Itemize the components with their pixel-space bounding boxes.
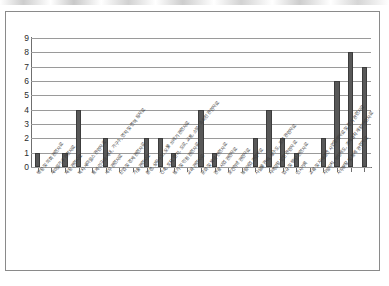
x-tick-mark: [51, 168, 52, 172]
y-tick-label-2: 2: [15, 134, 29, 143]
gridline-y-7: [31, 67, 371, 68]
x-tick-mark: [174, 168, 175, 172]
y-axis-tick-labels: 0123456789: [13, 0, 29, 286]
x-tick-mark: [147, 168, 148, 172]
x-tick-mark: [215, 168, 216, 172]
y-tick-label-4: 4: [15, 106, 29, 115]
gridline-y-9: [31, 38, 371, 39]
x-tick-mark: [187, 168, 188, 172]
y-tick-label-6: 6: [15, 77, 29, 86]
x-tick-mark: [228, 168, 229, 172]
x-tick-mark: [106, 168, 107, 172]
x-tick-mark: [119, 168, 120, 172]
x-tick-mark: [283, 168, 284, 172]
x-tick-mark: [65, 168, 66, 172]
x-tick-mark: [79, 168, 80, 172]
y-tick-label-5: 5: [15, 91, 29, 100]
y-tick-label-1: 1: [15, 149, 29, 158]
x-tick-mark: [351, 168, 352, 172]
x-tick-mark: [296, 168, 297, 172]
bar: [35, 153, 40, 167]
x-tick-mark: [160, 168, 161, 172]
x-tick-mark: [133, 168, 134, 172]
gridline-y-6: [31, 81, 371, 82]
gridline-y-5: [31, 95, 371, 96]
x-tick-mark: [201, 168, 202, 172]
gridline-y-8: [31, 52, 371, 53]
y-tick-label-3: 3: [15, 120, 29, 129]
x-tick-mark: [92, 168, 93, 172]
y-tick-label-0: 0: [15, 163, 29, 172]
x-tick-mark: [337, 168, 338, 172]
x-tick-mark: [364, 168, 365, 172]
y-tick-label-8: 8: [15, 48, 29, 57]
plot-area: [31, 38, 371, 167]
x-tick-mark: [242, 168, 243, 172]
y-tick-label-7: 7: [15, 63, 29, 72]
x-tick-mark: [310, 168, 311, 172]
x-tick-mark: [38, 168, 39, 172]
x-tick-mark: [323, 168, 324, 172]
x-tick-mark: [255, 168, 256, 172]
scan-artifact-band: [0, 0, 389, 5]
x-tick-mark: [269, 168, 270, 172]
y-tick-label-9: 9: [15, 34, 29, 43]
